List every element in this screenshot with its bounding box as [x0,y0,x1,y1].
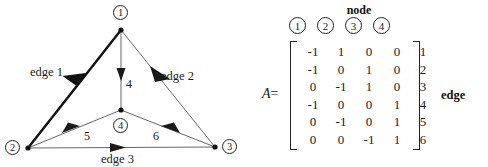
graph-drawing [0,0,244,167]
matrix-cell: 0 [355,96,383,114]
matrix-cell: 1 [327,43,355,61]
matrix-cell: 1 [383,96,411,114]
figure-canvas: 1 2 3 4 edge 1 edge 2 edge 3 4 5 6 node … [0,0,488,167]
matrix-column-group-label: node [304,3,414,18]
node-4-dot [118,107,123,112]
matrix-cell: 0 [355,113,383,131]
row-header-edge-2: 2 [416,61,430,79]
matrix-cell: 0 [327,61,355,79]
matrix-cell: 0 [355,43,383,61]
left-bracket [290,41,297,150]
column-header-node-2: 2 [317,17,334,34]
edge-3-line [28,143,215,152]
node-3-dot [212,144,217,149]
edge-4-line [117,30,126,110]
column-header-node-4: 4 [373,17,390,34]
matrix-cell: -1 [327,78,355,96]
matrix-cell: 0 [299,131,327,149]
edge-4-arrowhead [117,68,126,81]
matrix-cell: 0 [299,113,327,131]
matrix-cell: 0 [299,78,327,96]
row-header-edge-3: 3 [416,78,430,96]
edge-3-arrowhead [110,143,126,152]
row-header-edge-1: 1 [416,43,430,61]
matrix-cell: 1 [383,113,411,131]
equals-sign: = [271,86,279,101]
matrix-cell: 0 [383,78,411,96]
edge-2-label: edge 2 [161,70,194,83]
matrix-row-group-label: edge [441,88,465,103]
matrix-cell: -1 [299,61,327,79]
matrix-cell: 1 [355,61,383,79]
matrix-cell: 1 [355,78,383,96]
edge-6-label: 6 [153,130,159,142]
node-3-label: 3 [222,139,237,154]
column-header-node-3: 3 [345,17,362,34]
directed-graph-panel: 1 2 3 4 edge 1 edge 2 edge 3 4 5 6 [0,0,244,167]
edge-5-label: 5 [84,130,90,142]
edge-4-label: 4 [126,78,132,90]
node-1-label: 1 [113,5,128,20]
matrix-name-equation: A= [262,86,278,102]
node-2-dot [25,145,30,150]
matrix-cell: 0 [327,131,355,149]
matrix-cell: 0 [383,43,411,61]
node-2-label: 2 [5,140,20,155]
matrix-body: -1 1 0 0 -1 0 1 0 0 -1 1 0 -1 0 0 1 0 -1… [290,41,420,150]
matrix-cell: -1 [299,96,327,114]
row-header-edge-4: 4 [416,96,430,114]
matrix-cell: -1 [327,113,355,131]
row-header-edge-6: 6 [416,131,430,149]
edge-2-line [121,30,215,147]
edge-1-line [28,30,121,148]
matrix-cell: 0 [383,61,411,79]
edge-1-label: edge 1 [30,66,63,79]
matrix-cell: 1 [383,131,411,149]
matrix-row-headers: 1 2 3 4 5 6 [416,43,430,148]
edge-3-label: edge 3 [101,153,134,166]
incidence-matrix-panel: node 1 2 3 4 A= -1 1 0 0 -1 0 1 0 0 -1 [244,0,488,167]
matrix-cell: -1 [355,131,383,149]
node-4-label: 4 [113,118,128,133]
matrix-cell: -1 [299,43,327,61]
matrix-name: A [262,86,271,101]
column-header-node-1: 1 [289,17,306,34]
edge-6-line [121,110,215,147]
row-header-edge-5: 5 [416,113,430,131]
matrix-cells: -1 1 0 0 -1 0 1 0 0 -1 1 0 -1 0 0 1 0 -1… [297,41,413,150]
matrix-column-headers: 1 2 3 4 [289,17,390,34]
node-1-dot [118,27,123,32]
edge-1-arrowhead [62,73,89,88]
matrix-cell: 0 [327,96,355,114]
edge-6-arrowhead [161,123,180,134]
